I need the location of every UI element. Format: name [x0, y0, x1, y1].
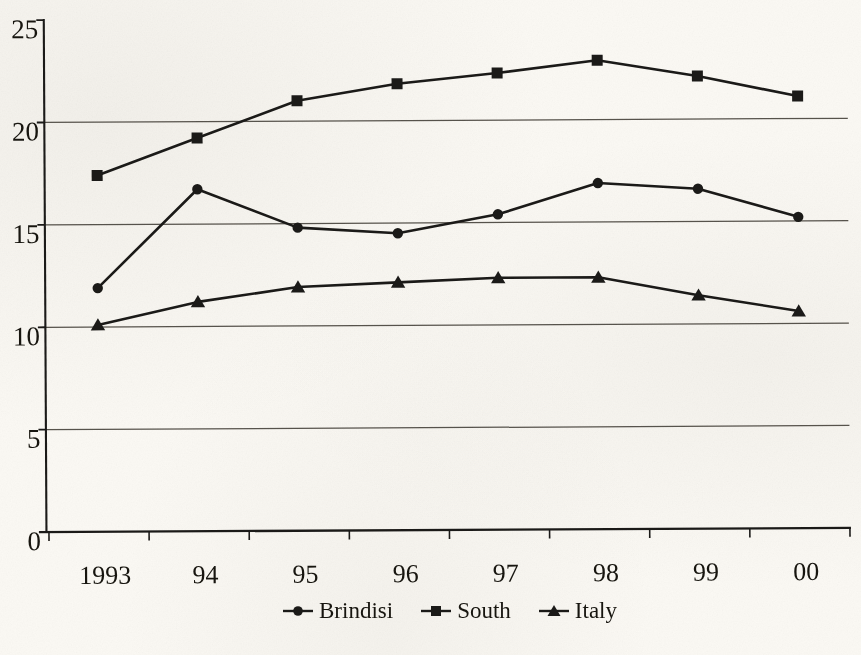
x-axis-tick-label-97: 97	[493, 559, 519, 588]
x-axis-tick-label-98: 98	[593, 558, 619, 587]
legend-item-italy: Italy	[538, 598, 617, 624]
marker-south-95	[291, 95, 302, 106]
marker-south-94	[192, 133, 203, 144]
y-axis-tick-label-5: 5	[27, 424, 41, 454]
y-axis-tick-label-0: 0	[27, 526, 41, 556]
x-axis-tick-label-99: 99	[693, 558, 719, 587]
marker-south-97	[492, 67, 503, 78]
y-axis-tick-label-25: 25	[11, 14, 38, 44]
series-line-brindisi	[97, 182, 798, 288]
x-axis-tick-label-00: 00	[793, 557, 819, 586]
scanned-line-chart-figure: 0510152025199394959697989900 Brindisi So…	[0, 0, 861, 655]
legend-item-south: South	[420, 598, 511, 624]
chart-legend: Brindisi South Italy	[0, 598, 861, 624]
y-axis-line	[44, 19, 47, 532]
marker-south-1993	[92, 170, 103, 181]
triangle-marker-icon	[538, 604, 570, 618]
chart-canvas: 0510152025199394959697989900	[0, 0, 861, 655]
legend-label-brindisi: Brindisi	[319, 598, 393, 624]
x-axis-tick-label-95: 95	[292, 560, 318, 589]
square-marker-icon	[420, 604, 452, 618]
marker-brindisi-99	[693, 183, 703, 193]
marker-brindisi-97	[493, 209, 503, 219]
marker-brindisi-94	[192, 184, 202, 194]
x-axis-tick-label-96: 96	[393, 559, 419, 588]
marker-brindisi-1993	[93, 283, 103, 293]
legend-label-south: South	[457, 598, 511, 624]
y-axis-tick-label-20: 20	[12, 117, 39, 147]
circle-marker-icon	[282, 604, 314, 618]
y-axis-tick-label-15: 15	[12, 219, 39, 249]
gridline-5	[46, 425, 849, 429]
gridline-10	[45, 323, 848, 327]
legend-label-italy: Italy	[575, 598, 617, 624]
x-axis-tick-label-94: 94	[192, 560, 218, 589]
marker-brindisi-95	[292, 222, 302, 232]
marker-south-98	[592, 55, 603, 66]
marker-south-99	[692, 71, 703, 82]
plot-area: 0510152025199394959697989900	[0, 0, 861, 655]
y-axis-tick-label-10: 10	[13, 321, 40, 351]
marker-south-00	[792, 90, 803, 101]
marker-brindisi-98	[593, 178, 603, 188]
x-axis-tick-label-1993: 1993	[79, 561, 131, 590]
legend-item-brindisi: Brindisi	[282, 598, 393, 624]
gridline-20	[44, 118, 847, 122]
marker-brindisi-96	[393, 228, 403, 238]
marker-south-96	[392, 78, 403, 89]
x-axis-line	[39, 528, 851, 532]
marker-brindisi-00	[793, 212, 803, 222]
